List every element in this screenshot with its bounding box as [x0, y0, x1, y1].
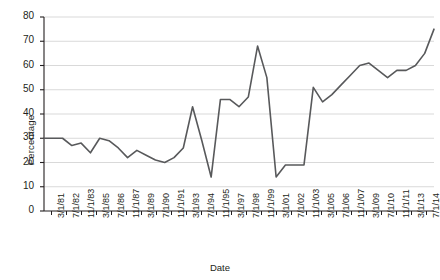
x-tick-label: 11/1/83 — [86, 189, 96, 218]
x-tick-label: 3/1/97 — [236, 193, 246, 218]
x-tick-label: 7/1/82 — [71, 193, 81, 218]
x-tick-label: 11/1/07 — [356, 189, 366, 218]
gridlines — [44, 17, 434, 187]
x-tick-label: 7/1/86 — [116, 193, 126, 218]
line-chart: 01020304050607080 3/1/817/1/8211/1/833/1… — [0, 0, 440, 280]
x-tick-label: 3/1/85 — [101, 193, 111, 218]
y-axis-title: Percentage — [25, 80, 36, 200]
x-axis-title: Date — [0, 262, 440, 273]
y-tick-label: 60 — [8, 59, 34, 70]
x-tick-label: 11/1/11 — [401, 189, 411, 218]
x-tick-label: 7/1/14 — [431, 193, 440, 218]
x-tick-label: 3/1/89 — [146, 193, 156, 218]
x-tick-label: 11/1/03 — [311, 189, 321, 218]
x-tick-label: 3/1/93 — [191, 193, 201, 218]
x-tick-label: 11/1/87 — [131, 189, 141, 218]
x-tick-label: 7/1/98 — [251, 193, 261, 218]
x-tick-label: 3/1/01 — [281, 193, 291, 218]
x-tick-label: 3/1/81 — [56, 193, 66, 218]
y-tick-label: 70 — [8, 34, 34, 45]
x-tick-label: 7/1/94 — [206, 193, 216, 218]
x-tick-label: 3/1/13 — [416, 193, 426, 218]
x-tick-label: 7/1/06 — [341, 193, 351, 218]
x-tick-label: 7/1/10 — [386, 193, 396, 218]
y-tick-label: 0 — [8, 204, 34, 215]
x-tick-label: 3/1/09 — [371, 193, 381, 218]
x-tick-label: 3/1/05 — [326, 193, 336, 218]
data-series-line — [44, 29, 434, 177]
x-tick-label: 11/1/95 — [221, 189, 231, 218]
x-tick-label: 11/1/91 — [176, 189, 186, 218]
x-tick-label: 7/1/02 — [296, 193, 306, 218]
plot-area — [0, 0, 440, 280]
y-tick-marks — [40, 17, 44, 211]
y-tick-label: 80 — [8, 10, 34, 21]
x-tick-label: 11/1/99 — [266, 189, 276, 218]
x-tick-label: 7/1/90 — [161, 193, 171, 218]
